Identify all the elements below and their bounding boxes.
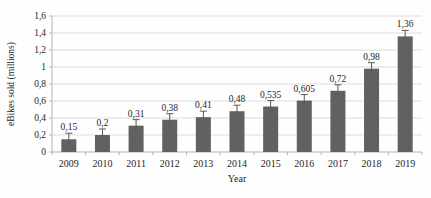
x-tick-label: 2018	[362, 158, 382, 169]
x-tick-label: 2014	[227, 158, 247, 169]
value-label: 0,605	[294, 84, 316, 94]
chart-canvas: 00,20,40,60,811,21,41,60,1520090,220100,…	[0, 0, 431, 198]
ebike-sales-bar-chart: 00,20,40,60,811,21,41,60,1520090,220100,…	[0, 0, 431, 198]
x-tick-label: 2019	[395, 158, 415, 169]
bar-2013	[196, 117, 211, 152]
x-tick-label: 2010	[92, 158, 112, 169]
bar-2017	[330, 91, 345, 152]
y-tick-label: 0,4	[34, 113, 46, 123]
bar-2014	[230, 111, 245, 152]
x-axis-title: Year	[228, 173, 247, 184]
value-label: 1,36	[397, 19, 414, 29]
y-tick-label: 0	[41, 147, 46, 157]
value-label: 0,48	[229, 94, 246, 104]
bar-2015	[263, 107, 278, 152]
y-tick-label: 1,6	[34, 11, 46, 21]
value-label: 0,41	[195, 100, 212, 110]
value-label: 0,15	[61, 122, 78, 132]
bar-2016	[297, 101, 312, 152]
x-tick-label: 2015	[261, 158, 281, 169]
y-tick-label: 1	[41, 62, 46, 72]
y-tick-label: 0,2	[34, 130, 46, 140]
value-label: 0,535	[260, 90, 282, 100]
x-tick-label: 2017	[328, 158, 348, 169]
y-tick-label: 0,8	[34, 79, 46, 89]
x-tick-label: 2011	[126, 158, 146, 169]
y-tick-label: 1,4	[34, 28, 46, 38]
value-label: 0,2	[97, 118, 109, 128]
y-tick-label: 0,6	[34, 96, 46, 106]
x-tick-label: 2009	[59, 158, 79, 169]
x-tick-label: 2012	[160, 158, 180, 169]
bar-2019	[398, 36, 413, 152]
y-tick-label: 1,2	[34, 45, 46, 55]
value-label: 0,98	[363, 52, 380, 62]
bar-2018	[364, 69, 379, 152]
value-label: 0,38	[161, 103, 178, 113]
x-tick-label: 2013	[193, 158, 213, 169]
x-tick-label: 2016	[294, 158, 314, 169]
value-label: 0,72	[330, 74, 347, 84]
value-label: 0,31	[128, 109, 145, 119]
y-axis-title: eBikes sold (millions)	[6, 42, 17, 126]
